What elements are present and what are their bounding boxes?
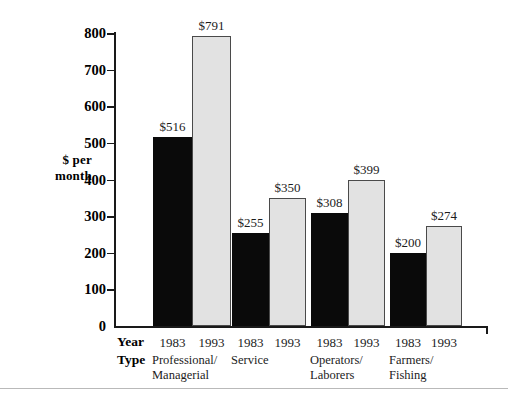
y-tick-mark-300 <box>107 216 114 218</box>
y-tick-mark-100 <box>107 289 114 291</box>
y-tick-label-600: 600 <box>58 99 106 114</box>
y-tick-label-100: 100 <box>58 282 106 297</box>
bar-255 <box>232 233 269 326</box>
y-tick-mark-800 <box>107 33 114 35</box>
bar-value-label: $791 <box>182 19 242 32</box>
bar-value-label: $399 <box>337 163 397 176</box>
bar-274 <box>426 226 462 326</box>
bar-399 <box>348 180 385 326</box>
bar-value-label: $350 <box>258 181 318 194</box>
bar-516 <box>153 137 192 326</box>
bar-308 <box>311 213 348 326</box>
y-tick-mark-500 <box>107 143 114 145</box>
bar-chart-figure: $ per month 8007006005004003002001000 $5… <box>0 0 508 396</box>
y-tick-label-700: 700 <box>58 63 106 78</box>
y-tick-mark-200 <box>107 253 114 255</box>
y-tick-mark-400 <box>107 180 114 182</box>
y-tick-mark-600 <box>107 106 114 108</box>
bar-350 <box>269 198 306 326</box>
year-label-1993-group4: 1993 <box>419 336 469 349</box>
type-label-group4: Farmers/ Fishing <box>389 353 499 383</box>
bar-200 <box>390 253 426 326</box>
y-axis-title-line1: $ per <box>18 152 92 168</box>
bar-791 <box>192 36 231 326</box>
y-tick-label-300: 300 <box>58 209 106 224</box>
bar-value-label: $274 <box>414 209 474 222</box>
footer-rule <box>0 388 508 389</box>
y-tick-mark-700 <box>107 70 114 72</box>
y-axis-line <box>114 32 116 327</box>
x-axis-line <box>114 326 488 328</box>
y-tick-label-0: 0 <box>58 319 106 334</box>
y-tick-label-500: 500 <box>58 136 106 151</box>
y-tick-label-800: 800 <box>58 26 106 41</box>
row-head-year: Year <box>117 335 144 349</box>
y-tick-label-400: 400 <box>58 173 106 188</box>
x-axis-end-cap <box>486 326 488 334</box>
row-head-type: Type <box>117 353 145 367</box>
y-tick-label-200: 200 <box>58 246 106 261</box>
